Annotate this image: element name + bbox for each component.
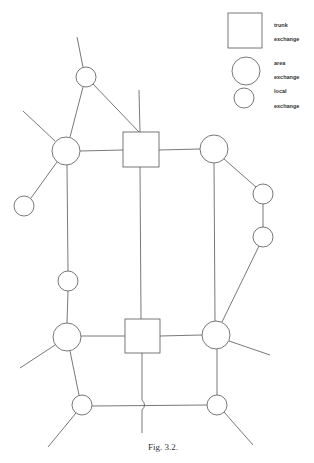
- link-trunk-top-stub: [139, 90, 140, 132]
- link-area-right-local-ru: [224, 159, 256, 187]
- legend-trunk-label-2: exchange: [274, 36, 299, 42]
- link-area-lower-left-stub: [20, 345, 55, 368]
- link-local-mid-area-lower-left: [67, 291, 68, 323]
- link-local-top-area-left: [70, 87, 83, 137]
- legend-area-label-2: exchange: [274, 74, 299, 80]
- link-trunk-area-right: [159, 149, 200, 150]
- link-local-br-stub: [224, 412, 253, 445]
- legend-area-label-1: area: [274, 60, 285, 66]
- local-exchange-bottom-right: [207, 395, 227, 415]
- trunk-exchange-lower: [125, 319, 160, 353]
- link-area-left-local-mid: [67, 165, 68, 271]
- legend-symbols: [228, 13, 262, 108]
- link-area-right-area-lower-right: [214, 163, 215, 321]
- area-exchange-upper-right: [200, 135, 228, 163]
- link-area-left-stub: [23, 111, 55, 141]
- figure-caption: Fig. 3.2.: [148, 442, 178, 452]
- legend-local-label-1: local: [274, 88, 287, 94]
- local-exchange-far-left: [14, 196, 34, 216]
- link-local-bl-stub: [48, 413, 76, 447]
- area-exchange-lower-left: [53, 323, 81, 351]
- legend-trunk-symbol: [228, 13, 262, 48]
- link-top-stub: [77, 37, 83, 67]
- link-local-rl-area-lower-right: [222, 246, 259, 322]
- link-area-left-far-left: [31, 162, 57, 198]
- legend-local-label-2: exchange: [274, 103, 299, 109]
- local-exchange-right-upper: [253, 184, 273, 204]
- local-exchange-top: [76, 67, 96, 87]
- link-local-top-trunk: [93, 84, 139, 132]
- legend-area-symbol: [232, 57, 260, 85]
- area-exchange-lower-right: [202, 321, 230, 349]
- link-area-left-trunk: [80, 150, 123, 151]
- legend-trunk-label-1: trunk: [274, 22, 288, 28]
- local-exchange-left-mid: [58, 271, 78, 291]
- trunk-exchange-upper: [123, 132, 159, 167]
- link-trunk-lower-stub-bridge: [142, 353, 145, 433]
- area-exchange-upper-left: [52, 137, 80, 165]
- local-exchange-bottom-left: [72, 395, 92, 415]
- link-trunk-trunk: [140, 167, 141, 319]
- link-area-lower-right-stub: [229, 341, 270, 355]
- legend-local-symbol: [234, 88, 254, 108]
- local-exchange-right-lower: [253, 227, 273, 247]
- link-local-bl-local-br: [92, 405, 207, 406]
- link-area-lower-left-local-bl: [70, 351, 79, 395]
- links: [20, 37, 270, 447]
- link-trunk-area-lower-right: [160, 335, 202, 336]
- network-diagram: [0, 0, 314, 463]
